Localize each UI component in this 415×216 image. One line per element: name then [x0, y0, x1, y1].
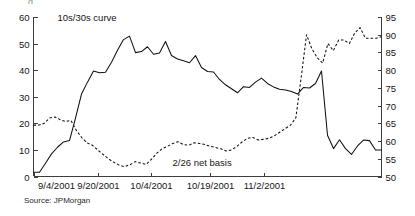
series-line-2-26-net-basis [34, 28, 382, 167]
left-axis-ticks [34, 18, 38, 178]
left-tick-label: 30 [19, 92, 30, 103]
x-tick-label: 10/19/2001 [187, 180, 235, 191]
right-tick-label: 90 [386, 30, 397, 41]
line-chart: 0102030405060 50556065707580859095 9/4/2… [0, 0, 415, 216]
source-note: Source: JPMorgan [24, 196, 90, 205]
right-axis-ticks [378, 18, 382, 178]
left-tick-label: 50 [19, 39, 30, 50]
right-tick-label: 70 [386, 101, 397, 112]
right-tick-label: 65 [386, 118, 397, 129]
series-annotation-label: 10s/30s curve [57, 12, 116, 23]
right-tick-label: 80 [386, 65, 397, 76]
x-axis-tick-labels: 9/4/20019/20/200110/4/200110/19/200111/2… [38, 180, 285, 191]
right-tick-label: 55 [386, 154, 397, 165]
left-tick-label: 60 [19, 12, 30, 23]
series-line-10s30s-curve [34, 36, 382, 172]
left-tick-label: 20 [19, 118, 30, 129]
left-axis-tick-labels: 0102030405060 [19, 12, 30, 183]
chart-axes [34, 17, 382, 177]
left-tick-label: 40 [19, 65, 30, 76]
x-tick-label: 9/20/2001 [77, 180, 119, 191]
chart-series [34, 28, 382, 173]
left-tick-label: 0 [24, 172, 29, 183]
right-axis-tick-labels: 50556065707580859095 [386, 12, 397, 183]
x-axis-ticks [35, 173, 265, 177]
chart-figure: g 0102030405060 50556065707580859095 9/4… [0, 0, 415, 216]
right-tick-label: 60 [386, 136, 397, 147]
series-annotation-label: 2/26 net basis [173, 157, 232, 168]
right-tick-label: 85 [386, 47, 397, 58]
left-tick-label: 10 [19, 145, 30, 156]
right-tick-label: 75 [386, 83, 397, 94]
right-tick-label: 50 [386, 172, 397, 183]
x-tick-label: 9/4/2001 [38, 180, 75, 191]
right-tick-label: 95 [386, 12, 397, 23]
x-tick-label: 11/2/2001 [244, 180, 286, 191]
x-tick-label: 10/4/2001 [130, 180, 172, 191]
